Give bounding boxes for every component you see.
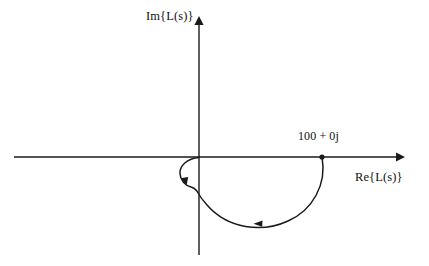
gain-point-dot	[319, 154, 324, 159]
imaginary-axis	[194, 16, 203, 255]
nyquist-plot-canvas	[0, 0, 429, 266]
real-axis-label-text: Re{L(s)}	[355, 170, 403, 184]
gain-point-label-text: 100 + 0j	[298, 129, 339, 143]
nyquist-small-loop	[180, 158, 199, 191]
imaginary-axis-label: Im{L(s)}	[146, 9, 194, 24]
nyquist-figure: Im{L(s)} Re{L(s)} 100 + 0j	[0, 0, 429, 266]
nyquist-main-arc	[197, 157, 324, 228]
main-arc-path	[197, 157, 324, 228]
real-axis-label: Re{L(s)}	[355, 170, 403, 185]
main-arc-direction-arrowhead	[254, 221, 263, 227]
real-axis-arrowhead	[396, 152, 405, 161]
imaginary-axis-label-text: Im{L(s)}	[146, 9, 194, 23]
small-loop-path	[180, 158, 199, 191]
real-axis	[14, 152, 405, 161]
gain-point-label: 100 + 0j	[298, 129, 339, 144]
imaginary-axis-arrowhead	[194, 16, 203, 25]
